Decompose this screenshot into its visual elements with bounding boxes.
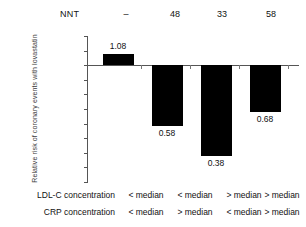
crp-cell-1: < median <box>122 207 170 217</box>
x-tick-3 <box>239 65 240 69</box>
y-tick-0.3 <box>84 167 88 168</box>
ldl-c-cell-1: < median <box>122 190 170 200</box>
crp-cell-4: > median <box>258 207 306 217</box>
ldl-c-row-label: LDL-C concentration <box>10 190 115 200</box>
nnt-value-1: – <box>103 9 149 19</box>
y-tick-1.2 <box>84 36 88 37</box>
y-tick-0.7 <box>84 109 88 110</box>
bar-group-1 <box>103 54 134 66</box>
y-tick-0.9 <box>84 80 88 81</box>
bar-value-2: 0.58 <box>147 129 187 138</box>
crp-row: CRP concentration < median > median < me… <box>0 207 306 221</box>
y-tick-0.6 <box>84 124 88 125</box>
y-tick-1.1 <box>84 51 88 52</box>
ldl-c-row: LDL-C concentration < median < median > … <box>0 190 306 204</box>
y-tick-0.8 <box>84 94 88 95</box>
bar-group-4 <box>250 65 281 112</box>
bar-value-3: 0.38 <box>196 159 236 168</box>
bar-group-3 <box>201 65 232 156</box>
x-tick-1 <box>141 65 142 69</box>
bar-value-1: 1.08 <box>98 42 138 51</box>
nnt-row: NNT – 48 33 58 <box>0 9 306 23</box>
x-tick-2 <box>190 65 191 69</box>
bar-group-2 <box>152 65 183 126</box>
ldl-c-cell-4: > median <box>258 190 306 200</box>
nnt-value-2: 48 <box>152 9 198 19</box>
crp-cell-2: > median <box>171 207 219 217</box>
nnt-header-label: NNT <box>60 9 100 19</box>
ldl-c-cell-2: < median <box>171 190 219 200</box>
nnt-value-3: 33 <box>199 9 245 19</box>
y-axis-title: Relative risk of coronary events with lo… <box>31 34 38 184</box>
y-tick-0.4 <box>84 153 88 154</box>
nnt-value-4: 58 <box>248 9 294 19</box>
bar-value-4: 0.68 <box>245 115 285 124</box>
y-tick-0.2 <box>84 182 88 183</box>
crp-row-label: CRP concentration <box>10 207 115 217</box>
y-tick-0.5 <box>84 138 88 139</box>
plot-area: 1.2 1.1 1 0.9 0.8 0.7 0.6 0.5 0.4 0.3 0.… <box>87 36 299 182</box>
x-tick-4 <box>288 65 289 69</box>
chart-figure: NNT – 48 33 58 Relative risk of coronary… <box>0 0 306 227</box>
